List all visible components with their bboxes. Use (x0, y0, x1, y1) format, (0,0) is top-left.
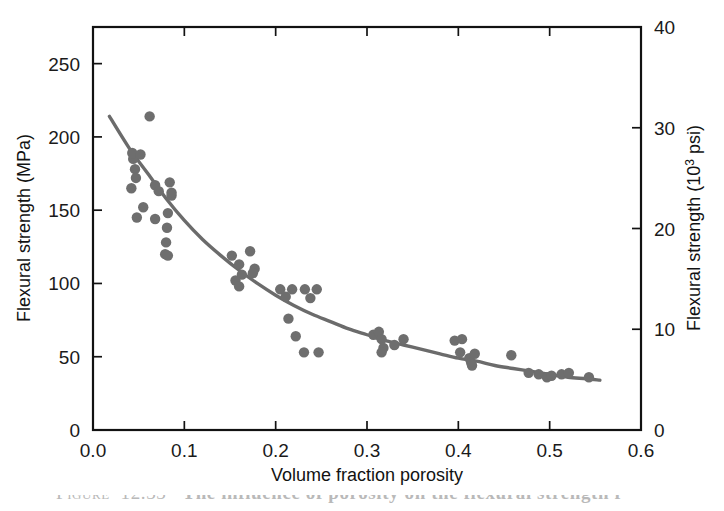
y-tick-label-right: 30 (654, 118, 675, 139)
plot-frame (93, 27, 641, 430)
flexural-strength-porosity-chart: 0.00.10.20.30.40.50.6 050100150200250 01… (0, 0, 724, 511)
x-tick-label: 0.4 (445, 440, 472, 461)
data-point (564, 368, 574, 378)
data-point (162, 223, 172, 233)
data-point (281, 291, 291, 301)
y-tick-label-left: 150 (48, 200, 80, 221)
data-point (132, 212, 142, 222)
fit-trend-curve (109, 116, 599, 380)
x-axis-tick-labels: 0.00.10.20.30.40.50.6 (80, 440, 654, 461)
data-point (163, 208, 173, 218)
data-point (161, 237, 171, 247)
x-tick-label: 0.0 (80, 440, 106, 461)
data-point (376, 347, 386, 357)
y-tick-label-right: 20 (654, 219, 675, 240)
data-point (130, 164, 140, 174)
data-point (299, 347, 309, 357)
data-point (131, 173, 141, 183)
data-point (166, 187, 176, 197)
data-point (506, 350, 516, 360)
data-point (144, 111, 154, 121)
data-point (245, 246, 255, 256)
data-point (227, 250, 237, 260)
x-tick-label: 0.6 (628, 440, 654, 461)
data-point (283, 313, 293, 323)
y-tick-label-left: 50 (59, 347, 80, 368)
figure-container: 0.00.10.20.30.40.50.6 050100150200250 01… (0, 0, 724, 511)
data-point (546, 371, 556, 381)
x-tick-label: 0.3 (354, 440, 380, 461)
data-point (389, 340, 399, 350)
data-point (376, 334, 386, 344)
y-tick-label-right: 40 (654, 17, 675, 38)
y-tick-label-left: 100 (48, 273, 80, 294)
data-point (523, 368, 533, 378)
x-axis-ticks-bottom (93, 421, 641, 430)
data-point (584, 372, 594, 382)
x-tick-label: 0.5 (536, 440, 562, 461)
data-point (154, 186, 164, 196)
y-tick-label-right: 10 (654, 319, 675, 340)
data-point (135, 149, 145, 159)
y-axis-left-title: Flexural strength (MPa) (14, 134, 34, 322)
data-point (467, 360, 477, 370)
x-tick-label: 0.2 (262, 440, 288, 461)
x-axis-title: Volume fraction porosity (271, 465, 463, 485)
data-point (165, 177, 175, 187)
data-point (150, 214, 160, 224)
data-point (470, 349, 480, 359)
data-point (234, 281, 244, 291)
y-tick-label-left: 0 (69, 420, 80, 441)
data-point (234, 259, 244, 269)
data-point (248, 268, 258, 278)
data-point (300, 284, 310, 294)
y-tick-label-left: 200 (48, 127, 80, 148)
data-point (455, 347, 465, 357)
data-point (138, 202, 148, 212)
y-axis-left-ticks (93, 64, 102, 430)
scatter-points-group (126, 111, 594, 382)
y-tick-label-right: 0 (654, 420, 665, 441)
y-axis-right-ticks (632, 27, 641, 430)
y-axis-left-tick-labels: 050100150200250 (48, 54, 80, 441)
data-point (457, 334, 467, 344)
y-axis-right-title: Flexural strength (103 psi) (683, 125, 704, 331)
x-axis-ticks-top (93, 27, 641, 36)
y-tick-label-left: 250 (48, 54, 80, 75)
data-point (313, 347, 323, 357)
data-point (126, 183, 136, 193)
y-axis-right-tick-labels: 010203040 (654, 17, 675, 441)
data-point (291, 331, 301, 341)
data-point (312, 284, 322, 294)
x-tick-label: 0.1 (171, 440, 197, 461)
data-point (305, 293, 315, 303)
data-point (398, 334, 408, 344)
data-point (163, 250, 173, 260)
